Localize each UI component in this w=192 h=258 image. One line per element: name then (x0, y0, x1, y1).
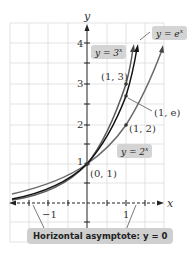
y-axis-label: y (83, 10, 91, 23)
label-0-1: (0, 1) (90, 168, 117, 179)
x-axis-label: x (167, 197, 174, 210)
arrow-ex (134, 44, 139, 52)
label-1-3: (1, 3) (101, 71, 128, 82)
ytick-4: 4 (77, 38, 83, 49)
point-1-2 (124, 123, 128, 127)
callout-3x: y = 3x (91, 45, 126, 59)
asymptote-callout: Horizontal asymptote: y = 0 (27, 228, 173, 244)
arrow-2x (159, 45, 164, 53)
label-1-e: (1, e) (154, 107, 181, 118)
arrow-3x (130, 44, 135, 52)
ytick-3: 3 (77, 78, 83, 89)
point-1-e (124, 94, 128, 98)
callout-2x: y = 2x (117, 144, 152, 158)
xtick-neg1: −1 (42, 209, 57, 220)
y-axis (84, 24, 90, 242)
ytick-1: 1 (77, 156, 83, 167)
xtick-1: 1 (123, 209, 129, 220)
point-1-3 (124, 82, 128, 86)
point-0-1 (85, 162, 89, 166)
ytick-2: 2 (77, 119, 83, 130)
callout-ex: y = ex (152, 26, 187, 40)
label-1-2: (1, 2) (129, 123, 156, 134)
